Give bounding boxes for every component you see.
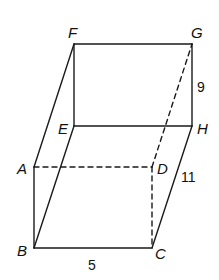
edge-BE — [34, 126, 74, 248]
edge-CH — [152, 126, 192, 248]
vertex-label-E: E — [58, 120, 69, 137]
measure-label-CH: 11 — [181, 169, 196, 185]
vertex-label-D: D — [157, 160, 168, 177]
edge-DG-hidden — [152, 44, 192, 167]
prism-diagram: F G E H A D B C 5 11 9 — [0, 0, 219, 280]
measure-label-GH: 9 — [197, 79, 205, 95]
vertex-label-B: B — [17, 242, 27, 259]
vertex-label-C: C — [155, 245, 166, 262]
vertex-label-G: G — [191, 24, 203, 41]
vertex-label-H: H — [197, 120, 208, 137]
edge-FA — [34, 44, 74, 167]
measure-label-BC: 5 — [88, 257, 96, 273]
vertex-label-A: A — [16, 160, 27, 177]
vertex-label-F: F — [68, 24, 78, 41]
